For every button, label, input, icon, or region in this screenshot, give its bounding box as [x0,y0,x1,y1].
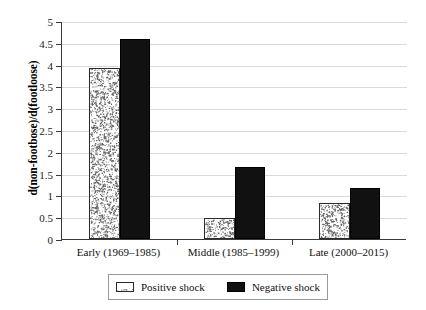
bar-positive-shock-group-3 [319,203,350,239]
legend-item-negative-shock: Negative shock [227,281,320,293]
legend-label-positive-shock: Positive shock [141,281,205,293]
speckle-pattern-icon [90,69,119,238]
bar-speckle-fill [320,204,349,238]
bar-speckle-fill [90,69,119,238]
y-axis-tick-label: 0 [48,234,54,246]
chart-legend: Positive shock Negative shock [108,274,328,300]
bar-negative-shock-group-1 [120,39,151,239]
y-axis-tick-label: 4 [48,60,54,72]
y-axis-tick-label: 1 [48,190,54,202]
gridline [62,66,407,67]
y-axis-tick [56,22,62,23]
y-axis-tick [56,218,62,219]
legend-label-negative-shock: Negative shock [252,281,320,293]
legend-swatch-negative-shock [227,282,245,292]
speckle-pattern-icon [117,289,133,292]
speckle-pattern-icon [205,219,234,238]
y-axis-tick [56,87,62,88]
bar-negative-shock-group-3 [350,188,381,239]
y-axis-tick-label: 4.5 [39,38,53,50]
y-axis-tick [56,131,62,132]
y-axis-tick [56,66,62,67]
legend-swatch-positive-shock [116,282,134,292]
y-axis-tick [56,44,62,45]
x-axis-category-label: Early (1969–1985) [61,246,176,258]
x-axis-separator-tick [292,239,293,245]
plot-area: 00.511.522.533.544.55 [61,22,406,240]
y-axis-tick-label: 2 [48,147,54,159]
y-axis-tick-label: 2.5 [39,125,53,137]
y-axis-tick [56,153,62,154]
speckle-pattern-icon [320,204,349,238]
y-axis-tick-label: 5 [48,16,54,28]
y-axis-tick-label: 3 [48,103,54,115]
bar-speckle-fill [205,219,234,238]
bar-negative-shock-group-2 [235,167,266,239]
y-axis-tick [56,109,62,110]
y-axis-tick [56,240,62,241]
y-axis-tick [56,175,62,176]
y-axis-tick-label: 1.5 [39,169,53,181]
bar-positive-shock-group-1 [89,68,120,239]
gridline [62,22,407,23]
y-axis-tick-label: 3.5 [39,81,53,93]
bar-chart-figure: d(non-footbose)/d(footloose) 00.511.522.… [0,0,426,310]
legend-item-positive-shock: Positive shock [116,281,205,293]
x-axis-category-label: Late (2000–2015) [291,246,406,258]
y-axis-tick-label: 0.5 [39,212,53,224]
bar-positive-shock-group-2 [204,218,235,239]
gridline [62,44,407,45]
x-axis-separator-tick [177,239,178,245]
y-axis-tick [56,196,62,197]
x-axis-category-label: Middle (1985–1999) [176,246,291,258]
